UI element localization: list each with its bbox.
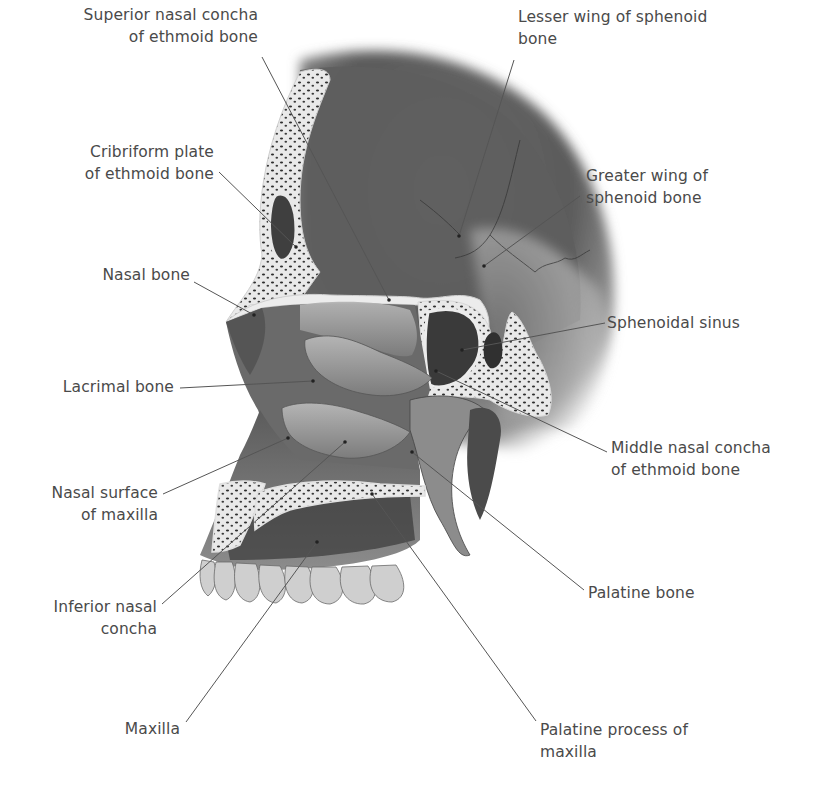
- label-line: Cribriform plate: [40, 141, 214, 163]
- label-lesser-wing-sphenoid: Lesser wing of sphenoid bone: [518, 6, 758, 50]
- label-line: Palatine process of: [540, 719, 740, 741]
- label-sphenoidal-sinus: Sphenoidal sinus: [607, 312, 777, 334]
- label-line: of maxilla: [30, 504, 158, 526]
- palatine-bone-shape: [410, 396, 501, 556]
- label-lacrimal-bone: Lacrimal bone: [28, 376, 174, 398]
- label-superior-nasal-concha: Superior nasal concha of ethmoid bone: [48, 4, 258, 48]
- label-line: concha: [30, 618, 157, 640]
- label-maxilla: Maxilla: [60, 718, 180, 740]
- label-line: Inferior nasal: [30, 596, 157, 618]
- label-line: bone: [518, 28, 758, 50]
- label-inferior-nasal-concha: Inferior nasal concha: [30, 596, 157, 640]
- label-cribriform-plate: Cribriform plate of ethmoid bone: [40, 141, 214, 185]
- label-line: Nasal surface: [30, 482, 158, 504]
- label-line: of ethmoid bone: [611, 459, 811, 481]
- label-middle-nasal-concha: Middle nasal concha of ethmoid bone: [611, 437, 811, 481]
- label-line: Lesser wing of sphenoid: [518, 6, 758, 28]
- label-nasal-surface-maxilla: Nasal surface of maxilla: [30, 482, 158, 526]
- label-line: Palatine bone: [588, 582, 728, 604]
- label-nasal-bone: Nasal bone: [60, 264, 190, 286]
- label-line: Middle nasal concha: [611, 437, 811, 459]
- label-line: sphenoid bone: [586, 187, 746, 209]
- label-greater-wing-sphenoid: Greater wing of sphenoid bone: [586, 165, 746, 209]
- label-line: of ethmoid bone: [48, 26, 258, 48]
- label-line: Lacrimal bone: [28, 376, 174, 398]
- leader-palatine-bone: [412, 452, 584, 590]
- label-line: Greater wing of: [586, 165, 746, 187]
- label-palatine-process-maxilla: Palatine process of maxilla: [540, 719, 740, 763]
- label-line: Maxilla: [60, 718, 180, 740]
- label-line: Nasal bone: [60, 264, 190, 286]
- label-line: of ethmoid bone: [40, 163, 214, 185]
- upper-teeth: [200, 560, 404, 604]
- label-palatine-bone: Palatine bone: [588, 582, 728, 604]
- anatomy-diagram: Superior nasal concha of ethmoid bone Le…: [0, 0, 827, 790]
- label-line: Superior nasal concha: [48, 4, 258, 26]
- label-line: Sphenoidal sinus: [607, 312, 777, 334]
- label-line: maxilla: [540, 741, 740, 763]
